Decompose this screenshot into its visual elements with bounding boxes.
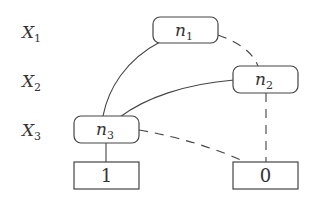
svg-text:X3: X3 bbox=[20, 120, 41, 143]
bdd-diagram: X1 X2 X3 n1 n2 n3 1 0 bbox=[0, 0, 317, 202]
node-n2: n2 bbox=[233, 66, 298, 93]
node-n3: n3 bbox=[74, 116, 139, 143]
level-label-x3: X3 bbox=[20, 120, 41, 143]
level-label-x2: X2 bbox=[20, 71, 41, 94]
terminal-1: 1 bbox=[74, 162, 139, 189]
svg-text:1: 1 bbox=[101, 165, 112, 186]
edge-n1-n2-dashed bbox=[218, 35, 258, 66]
svg-text:0: 0 bbox=[260, 165, 271, 186]
svg-text:X1: X1 bbox=[20, 22, 41, 45]
node-n1: n1 bbox=[153, 17, 218, 43]
edge-n3-t0-dashed bbox=[139, 130, 245, 162]
level-label-x1: X1 bbox=[20, 22, 41, 45]
edge-n1-n3-solid bbox=[103, 42, 160, 116]
edge-n2-n3-solid bbox=[120, 80, 234, 117]
svg-text:X2: X2 bbox=[20, 71, 41, 94]
terminal-0: 0 bbox=[233, 162, 298, 189]
